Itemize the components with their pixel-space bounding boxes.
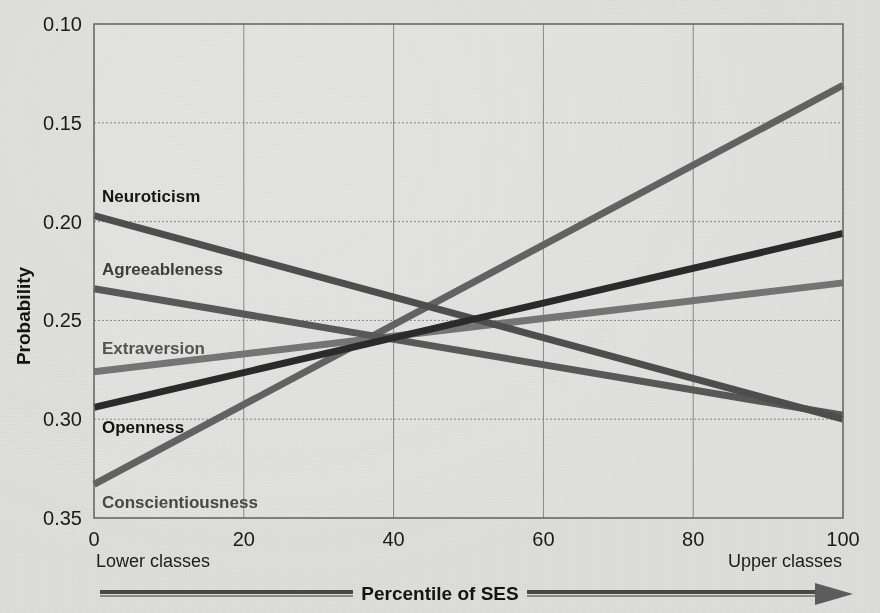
y-tick-label: 0.20 [43, 211, 82, 233]
x-tick-label: 0 [88, 528, 99, 550]
x-axis-title: Percentile of SES [361, 583, 518, 604]
series-label-conscientiousness: Conscientiousness [102, 493, 258, 512]
y-tick-label: 0.35 [43, 507, 82, 529]
x-axis-right-caption: Upper classes [728, 551, 842, 571]
y-axis-title: Probability [13, 266, 34, 365]
x-tick-label: 20 [233, 528, 255, 550]
y-tick-label: 0.15 [43, 112, 82, 134]
x-axis-left-caption: Lower classes [96, 551, 210, 571]
x-tick-label: 80 [682, 528, 704, 550]
x-tick-label: 100 [826, 528, 859, 550]
y-tick-label: 0.30 [43, 408, 82, 430]
series-label-openness: Openness [102, 418, 184, 437]
series-label-extraversion: Extraversion [102, 339, 205, 358]
x-tick-label: 60 [532, 528, 554, 550]
line-chart: 0.350.300.250.200.150.10 020406080100 Ne… [0, 0, 880, 613]
figure-root: 0.350.300.250.200.150.10 020406080100 Ne… [0, 0, 880, 613]
series-label-agreeableness: Agreeableness [102, 260, 223, 279]
series-label-neuroticism: Neuroticism [102, 187, 200, 206]
y-tick-label: 0.25 [43, 309, 82, 331]
y-tick-label: 0.10 [43, 13, 82, 35]
x-tick-label: 40 [382, 528, 404, 550]
